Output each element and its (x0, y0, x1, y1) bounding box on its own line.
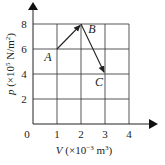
y-tick-8: 8 (21, 18, 27, 30)
x-tick-1: 1 (54, 128, 60, 140)
pv-diagram: 8 6 4 2 0 1 2 3 4 A B C V (×10−3 m3) p (… (0, 0, 165, 165)
grid (33, 24, 129, 124)
point-label-b: B (88, 22, 96, 36)
y-axis-arrow-icon (28, 2, 38, 10)
x-tick-2: 2 (78, 128, 84, 140)
x-axis (33, 119, 158, 129)
x-tick-0: 0 (24, 128, 30, 140)
x-tick-4: 4 (126, 128, 132, 140)
y-tick-2: 2 (21, 93, 27, 105)
point-label-c: C (95, 75, 104, 89)
process-path (57, 24, 104, 72)
y-axis-label: p (×105 N/m2) (4, 33, 17, 96)
y-tick-4: 4 (21, 68, 27, 80)
x-axis-label: V (×10−3 m3) (56, 144, 113, 157)
point-label-a: A (43, 50, 52, 64)
y-tick-6: 6 (21, 43, 27, 55)
y-axis (28, 2, 38, 124)
x-tick-3: 3 (102, 128, 108, 140)
arrow-a-to-b (57, 26, 80, 50)
x-axis-arrow-icon (149, 119, 158, 129)
